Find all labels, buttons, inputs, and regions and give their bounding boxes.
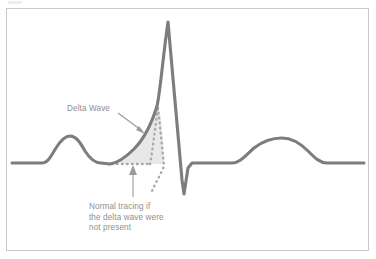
caption-line-1: Normal tracing if <box>89 202 199 213</box>
caption-line-2: the delta wave were <box>89 213 199 224</box>
ecg-delta-wave-figure: Delta Wave Normal tracing if the delta w… <box>0 0 376 259</box>
normal-tracing-caption: Normal tracing if the delta wave were no… <box>89 202 199 234</box>
scan-artifact <box>8 1 22 4</box>
caption-line-3: not present <box>89 223 199 234</box>
delta-wave-label: Delta Wave <box>67 104 110 115</box>
